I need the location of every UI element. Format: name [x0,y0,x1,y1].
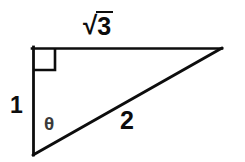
angle-label-theta: θ [44,114,54,133]
radicand-value: 3 [96,11,113,39]
radical-sign-icon: √ [83,12,97,38]
right-angle-marker-icon [33,48,55,70]
side-label-horizontal: √ 3 [83,11,113,39]
side-label-vertical: 1 [10,94,23,117]
right-triangle-figure: 1 √ 3 2 θ [0,0,245,162]
side-label-hypotenuse: 2 [120,108,134,133]
triangle-side-hypotenuse [33,48,222,155]
triangle-drawing [0,0,245,162]
